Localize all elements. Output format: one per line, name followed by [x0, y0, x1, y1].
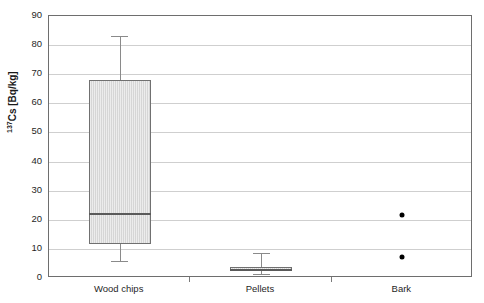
y-axis-tick-label: 10	[16, 243, 42, 253]
y-axis-tick-labels: 9080706050403020100	[12, 0, 42, 303]
whisker-cap-upper-pellets	[253, 253, 270, 254]
gridline	[49, 45, 471, 46]
x-axis-category-label-pellets: Pellets	[246, 283, 275, 294]
whisker-cap-upper-wood-chips	[111, 36, 128, 37]
y-axis-tick-label: 20	[16, 214, 42, 224]
whisker-lower-wood-chips	[120, 244, 121, 261]
data-point-bark-1	[400, 213, 405, 218]
y-axis-tick-label: 50	[16, 126, 42, 136]
median-line-wood-chips	[89, 213, 151, 215]
y-axis-tick-label: 0	[16, 272, 42, 282]
box-plot-chart: 137Cs [Bq/kg] 9080706050403020100 Wood c…	[0, 0, 484, 303]
whisker-cap-lower-wood-chips	[111, 261, 128, 262]
whisker-upper-pellets	[261, 253, 262, 267]
y-axis-tick-label: 40	[16, 156, 42, 166]
x-axis-category-label-bark: Bark	[392, 283, 412, 294]
plot-area	[48, 15, 472, 277]
box-wood-chips	[89, 80, 151, 244]
y-axis-tick-label: 30	[16, 185, 42, 195]
y-axis-tick-label: 60	[16, 97, 42, 107]
gridline	[49, 249, 471, 250]
gridline	[49, 74, 471, 75]
x-axis-tick	[189, 277, 190, 282]
y-axis-tick-label: 90	[16, 10, 42, 20]
x-axis-category-label-wood-chips: Wood chips	[94, 283, 143, 294]
y-axis-tick-label: 80	[16, 39, 42, 49]
y-axis-tick-label: 70	[16, 68, 42, 78]
whisker-cap-lower-pellets	[253, 274, 270, 275]
x-axis-tick	[331, 277, 332, 282]
data-point-bark-2	[400, 254, 405, 259]
whisker-upper-wood-chips	[120, 36, 121, 80]
median-line-pellets	[230, 269, 292, 271]
